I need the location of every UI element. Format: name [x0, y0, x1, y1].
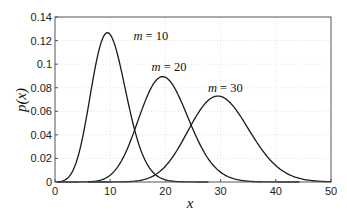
gridlines	[55, 17, 331, 182]
y-axis-label: p(x)	[13, 88, 30, 113]
annotation-m-30: m = 30	[208, 81, 243, 95]
y-tick-label: 0.1	[37, 58, 52, 70]
y-tick-labels: 00.020.040.060.080.10.120.14	[31, 11, 52, 188]
axis-ticks	[55, 17, 331, 182]
plot-frame	[55, 17, 331, 182]
annotation-m-20: m = 20	[152, 60, 187, 74]
x-tick-label: 10	[104, 185, 116, 197]
curve-annotations: m = 10m = 20m = 30	[133, 29, 242, 95]
y-tick-label: 0.04	[31, 129, 52, 141]
y-tick-label: 0.12	[31, 35, 52, 47]
x-tick-label: 50	[325, 185, 337, 197]
x-tick-labels: 01020304050	[52, 185, 337, 197]
x-tick-label: 40	[270, 185, 282, 197]
y-tick-label: 0.02	[31, 152, 52, 164]
curve-m-30	[88, 96, 331, 182]
x-axis-label: x	[186, 195, 194, 211]
y-tick-label: 0.14	[31, 11, 52, 23]
distribution-curves	[57, 33, 331, 182]
curve-m-10	[57, 33, 209, 182]
x-tick-label: 0	[52, 185, 58, 197]
y-tick-label: 0.06	[31, 105, 52, 117]
y-tick-label: 0.08	[31, 82, 52, 94]
curve-m-20	[57, 77, 300, 182]
annotation-m-10: m = 10	[133, 29, 168, 43]
poisson-distribution-chart: 00.020.040.060.080.10.120.14 01020304050…	[0, 0, 347, 217]
x-tick-label: 30	[214, 185, 226, 197]
x-tick-label: 20	[159, 185, 171, 197]
